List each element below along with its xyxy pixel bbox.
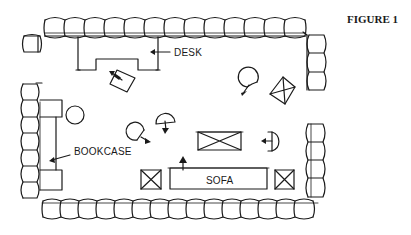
end-table <box>275 170 294 189</box>
end-table <box>270 77 295 104</box>
seating-row-top <box>44 18 306 39</box>
seating-column-right-lower <box>306 124 325 197</box>
end-table <box>141 170 161 189</box>
bookcase-label: BOOKCASE <box>74 146 132 157</box>
desk-label: DESK <box>174 47 202 58</box>
seating-row-bottom <box>42 199 318 219</box>
seating-column-left <box>21 83 42 198</box>
separate-seat <box>23 35 42 53</box>
figure-title: FIGURE 1 <box>347 13 398 25</box>
swivel-chair <box>238 67 258 96</box>
sofa-label: SOFA <box>206 175 234 186</box>
bookcase <box>40 100 62 190</box>
desk <box>76 37 160 70</box>
swivel-chair <box>261 132 279 151</box>
desk-pointer <box>150 49 170 55</box>
seating-column-right-upper <box>303 32 326 90</box>
swivel-chair <box>126 122 151 144</box>
desk-chair <box>109 70 135 92</box>
round-table <box>66 106 84 124</box>
bookcase-pointer <box>49 155 70 163</box>
swivel-chair <box>156 113 175 134</box>
coffee-table <box>196 132 243 150</box>
floor-plan-diagram: DESK BOOKCASE <box>0 0 411 235</box>
